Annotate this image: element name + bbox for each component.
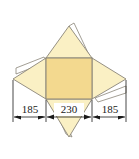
dimension-label-left: 185 [22,103,39,115]
dimension-labels: 185 230 185 [18,103,122,116]
dimension-label-center: 230 [61,103,78,115]
pyramid-net-figure: 185 230 185 [0,0,139,159]
arrowhead-center-end [84,115,91,120]
top-triangle-shape [46,26,92,58]
arrowhead-center-start [47,115,54,120]
dimension-label-right: 185 [102,103,119,115]
center-square-shape [46,58,92,99]
net-drawing: 185 230 185 [0,0,139,159]
